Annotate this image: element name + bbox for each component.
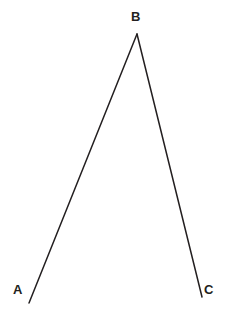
- vertex-label-c: C: [204, 283, 213, 296]
- vertex-label-b: B: [131, 10, 140, 23]
- angle-diagram-svg: [0, 0, 234, 323]
- diagram-background: [0, 0, 234, 323]
- geometry-figure-canvas: A B C: [0, 0, 234, 323]
- vertex-label-a: A: [13, 283, 22, 296]
